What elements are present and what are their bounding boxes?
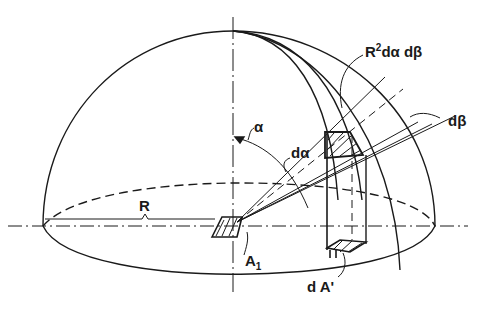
- meridian-2: [233, 31, 362, 200]
- meridian-3: [233, 31, 400, 270]
- d-alpha-leader: [284, 158, 290, 172]
- d-beta-label: dβ: [448, 113, 466, 128]
- hemisphere-outline: [43, 31, 435, 226]
- radius-label: R: [139, 198, 150, 213]
- alpha-arrow: [235, 137, 244, 143]
- area-element-rest: dα dβ: [381, 43, 422, 60]
- projected-area-leader: [338, 253, 345, 277]
- area-element-r: R: [365, 43, 376, 60]
- projected-area-label: d A': [307, 279, 334, 294]
- alpha-label: α: [254, 119, 263, 134]
- a1-label: A1: [245, 253, 261, 272]
- a1-subscript: 1: [256, 261, 262, 272]
- a1-letter: A: [245, 252, 256, 269]
- area-element-label: R2dα dβ: [365, 43, 422, 59]
- d-beta-leader: [410, 113, 440, 118]
- base-ellipse-front: [43, 226, 435, 274]
- ray-1: [237, 77, 385, 222]
- radius-dimension: [45, 214, 215, 219]
- d-alpha-label: dα: [291, 145, 309, 160]
